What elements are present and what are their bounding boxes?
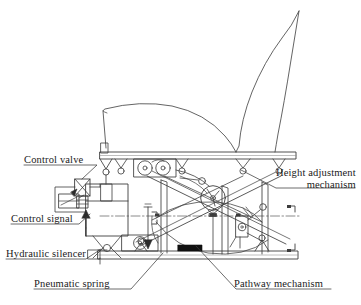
twin-roller-carriage [134,159,176,177]
label-pneumatic-spring: Pneumatic spring [34,278,110,290]
seat-backrest-outline [236,11,299,152]
label-height-adjustment: Height adjustment mechanism [276,167,356,190]
label-height-adjustment-line2: mechanism [276,179,356,191]
label-height-adjustment-line1: Height adjustment [276,167,356,178]
upper-mounting-rail [100,152,296,159]
label-pathway-mechanism: Pathway mechanism [234,278,323,290]
link-eyelet [180,178,205,185]
label-control-valve: Control valve [24,154,83,166]
control-valve-block [55,179,100,236]
fluid-reservoir [59,189,84,208]
upper-rail-brackets [115,159,285,174]
solid-stop-block [178,245,202,251]
base-roller [122,235,158,251]
height-adjust-arrow [144,204,152,249]
label-hydraulic-silencer: Hydraulic silencer [6,248,86,260]
figure-root: Control valve Control signal Hydraulic s… [0,0,361,305]
leader-control-valve [24,165,97,179]
frame-corner-marks [152,205,295,252]
label-control-signal: Control signal [11,213,73,225]
control-signal-arrow [82,210,90,236]
cushion-left-tab [101,143,108,153]
seat-cushion-outline [103,104,236,152]
